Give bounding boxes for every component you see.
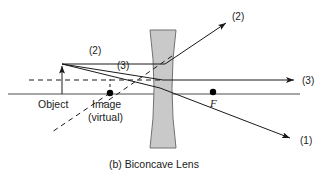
ray-3-label: (3) (302, 75, 314, 86)
object-label: Object (38, 98, 68, 110)
ray-3-mid-label: (3) (117, 60, 129, 71)
image-virtual-label: (virtual) (88, 111, 123, 123)
ray-diagram-canvas: (2) (3) (2) (3) (1) Object Image (virtua… (0, 0, 325, 175)
ray-3-incident (62, 64, 163, 80)
ray-2-incident-label: (2) (89, 45, 101, 56)
focal-point-dot (210, 89, 216, 95)
ray-1-label: (1) (300, 135, 312, 146)
figure-caption: (b) Biconcave Lens (109, 158, 199, 170)
ray-2-label: (2) (232, 11, 244, 22)
ray-1-refracted (160, 88, 290, 138)
image-point-dot (107, 90, 113, 96)
image-label: Image (92, 98, 121, 110)
ray-1-incident (62, 64, 160, 88)
ray-diagram-figure: (2) (3) (2) (3) (1) Object Image (virtua… (0, 0, 325, 175)
focal-point-label: F (209, 97, 217, 109)
